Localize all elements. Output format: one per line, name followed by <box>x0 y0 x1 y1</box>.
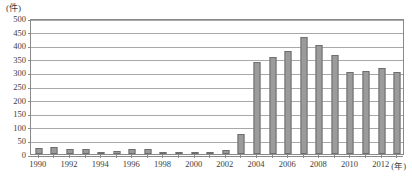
x-axis-tick <box>381 155 382 158</box>
bar <box>176 152 183 154</box>
bar-slot <box>140 20 156 154</box>
bar-slot <box>202 20 218 154</box>
bar-slot <box>187 20 203 154</box>
x-axis: (年) 199019921994199619982000200220042006… <box>30 155 404 181</box>
x-axis-tick <box>53 155 54 158</box>
bar <box>113 151 120 154</box>
bar-slot <box>249 20 265 154</box>
x-axis-tick <box>225 155 226 158</box>
x-axis-tick-label: 1992 <box>60 159 77 169</box>
bar <box>269 57 276 154</box>
bar-slot <box>280 20 296 154</box>
bar <box>191 152 198 154</box>
y-axis-tick-label: 150 <box>13 110 26 118</box>
bar-slot <box>389 20 405 154</box>
bar-slot <box>296 20 312 154</box>
x-axis-tick <box>162 155 163 158</box>
y-axis-tick-label: 350 <box>13 56 26 64</box>
bar-slot <box>218 20 234 154</box>
y-axis-tick-label: 450 <box>13 29 26 37</box>
x-axis-tick-label: 1994 <box>92 159 109 169</box>
x-axis-tick <box>334 155 335 158</box>
x-axis-tick-label: 2012 <box>372 159 389 169</box>
bar-slot <box>171 20 187 154</box>
y-axis-tick-label: 400 <box>13 42 26 50</box>
x-axis-tick <box>116 155 117 158</box>
bar-slot <box>374 20 390 154</box>
bar <box>129 149 136 154</box>
x-axis-tick <box>240 155 241 158</box>
x-axis-tick-label: 2006 <box>279 159 296 169</box>
bar <box>98 152 105 154</box>
bar-slot <box>93 20 109 154</box>
x-axis-tick <box>209 155 210 158</box>
bar <box>144 149 151 154</box>
y-axis-tick-label: 200 <box>13 97 26 105</box>
y-axis-tick-label: 100 <box>13 124 26 132</box>
bar-slot <box>343 20 359 154</box>
bar-slot <box>78 20 94 154</box>
bar <box>285 51 292 154</box>
bar-series <box>31 20 403 154</box>
y-axis-tick-label: 500 <box>13 15 26 23</box>
bar <box>331 55 338 154</box>
bar-slot <box>312 20 328 154</box>
x-axis-tick-label: 2010 <box>341 159 358 169</box>
x-axis-tick <box>365 155 366 158</box>
x-axis-tick <box>85 155 86 158</box>
bar <box>316 45 323 154</box>
x-axis-tick-label: 1990 <box>29 159 46 169</box>
y-axis-unit-label: (件) <box>6 1 21 14</box>
x-axis-unit-label: (年) <box>391 159 406 171</box>
x-axis-tick <box>303 155 304 158</box>
bar <box>82 149 89 154</box>
y-axis-tick-label: 0 <box>22 151 26 159</box>
plot-area <box>30 19 404 155</box>
x-axis-tick <box>194 155 195 158</box>
x-axis-tick <box>287 155 288 158</box>
y-axis-tick-label: 50 <box>18 137 27 145</box>
x-axis-tick <box>69 155 70 158</box>
x-axis-tick <box>272 155 273 158</box>
y-axis-tick-labels: 050100150200250300350400450500 <box>0 19 28 155</box>
x-axis-tick-label: 1996 <box>123 159 140 169</box>
bar-slot <box>109 20 125 154</box>
bar-slot <box>156 20 172 154</box>
bar <box>394 72 401 154</box>
bar <box>207 152 214 154</box>
bar <box>66 149 73 154</box>
x-axis-tick <box>318 155 319 158</box>
bar-slot <box>358 20 374 154</box>
bar <box>253 62 260 154</box>
bar <box>300 37 307 154</box>
x-axis-tick <box>256 155 257 158</box>
x-axis-tick <box>38 155 39 158</box>
y-axis-tick-label: 250 <box>13 83 26 91</box>
x-axis-tick <box>396 155 397 158</box>
bar-slot <box>47 20 63 154</box>
x-axis-tick <box>349 155 350 158</box>
x-axis-tick-label: 2002 <box>216 159 233 169</box>
bar <box>160 152 167 154</box>
bar-slot <box>31 20 47 154</box>
bar-slot <box>125 20 141 154</box>
bar <box>238 134 245 154</box>
bar <box>222 150 229 154</box>
bar <box>51 147 58 154</box>
bar <box>378 68 385 154</box>
bar-slot <box>234 20 250 154</box>
x-axis-tick <box>100 155 101 158</box>
bar-slot <box>62 20 78 154</box>
bar-slot <box>265 20 281 154</box>
bar-slot <box>327 20 343 154</box>
bar <box>35 148 42 154</box>
x-axis-tick-label: 2004 <box>247 159 264 169</box>
x-axis-tick <box>131 155 132 158</box>
x-axis-tick <box>178 155 179 158</box>
x-axis-tick-label: 1998 <box>154 159 171 169</box>
bar <box>363 71 370 154</box>
bar-chart: (件) 050100150200250300350400450500 (年) 1… <box>0 0 412 181</box>
bar <box>347 72 354 154</box>
y-axis-tick-label: 300 <box>13 69 26 77</box>
x-axis-tick-label: 2000 <box>185 159 202 169</box>
